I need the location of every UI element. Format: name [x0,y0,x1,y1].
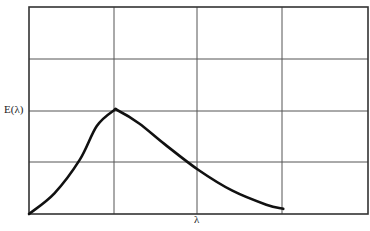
grid [29,7,368,214]
spectral-curve [29,109,283,214]
chart-canvas [0,0,370,231]
y-axis-label: E(λ) [4,103,23,115]
x-axis-label: λ [194,213,199,225]
